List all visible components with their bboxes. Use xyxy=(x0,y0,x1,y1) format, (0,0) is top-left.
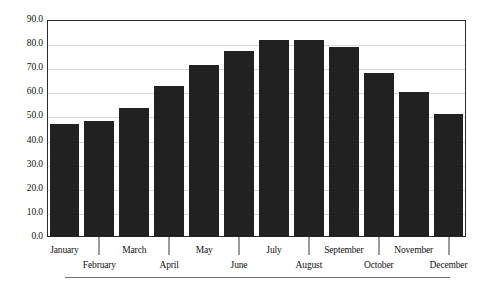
x-tick-label: January xyxy=(50,246,79,256)
bar-series xyxy=(47,20,466,237)
y-tick-label: 80.0 xyxy=(27,39,43,49)
bar xyxy=(434,114,464,237)
bar xyxy=(399,92,429,237)
bar xyxy=(294,40,324,237)
x-tick-label: November xyxy=(394,246,433,256)
y-tick-label: 40.0 xyxy=(27,136,43,146)
x-tick-mark xyxy=(239,237,240,255)
bar xyxy=(329,47,359,237)
x-tick-label: March xyxy=(122,246,146,256)
x-tick-mark xyxy=(308,237,309,255)
y-tick-label: 10.0 xyxy=(27,208,43,218)
bar xyxy=(259,40,289,237)
x-axis: JanuaryFebruaryMarchAprilMayJuneJulyAugu… xyxy=(47,237,466,299)
y-tick-label: 20.0 xyxy=(27,184,43,194)
x-tick-label: May xyxy=(196,246,213,256)
y-tick-label: 70.0 xyxy=(27,63,43,73)
bar xyxy=(224,51,254,237)
x-tick-label: August xyxy=(296,261,323,271)
y-tick-label: 50.0 xyxy=(27,112,43,122)
bar xyxy=(50,124,80,237)
y-tick-label: 60.0 xyxy=(27,88,43,98)
bar xyxy=(119,108,149,237)
x-axis-rule xyxy=(65,277,450,278)
bar-chart-figure: 0.010.020.030.040.050.060.070.080.090.0 … xyxy=(0,0,492,299)
x-tick-mark xyxy=(378,237,379,255)
x-tick-label: April xyxy=(160,261,179,271)
y-tick-label: 90.0 xyxy=(27,15,43,25)
x-tick-mark xyxy=(99,237,100,255)
x-tick-mark xyxy=(169,237,170,255)
y-axis: 0.010.020.030.040.050.060.070.080.090.0 xyxy=(0,0,47,250)
x-tick-mark xyxy=(448,237,449,255)
x-tick-label: September xyxy=(324,246,363,256)
y-tick-label: 30.0 xyxy=(27,160,43,170)
x-tick-label: June xyxy=(231,261,248,271)
x-tick-label: July xyxy=(266,246,281,256)
x-tick-label: December xyxy=(430,261,468,271)
x-tick-label: October xyxy=(364,261,394,271)
y-tick-label: 0.0 xyxy=(31,232,43,242)
bar xyxy=(364,73,394,237)
bar xyxy=(84,121,114,237)
x-tick-label: February xyxy=(83,261,116,271)
bar xyxy=(189,65,219,237)
bar xyxy=(154,86,184,237)
